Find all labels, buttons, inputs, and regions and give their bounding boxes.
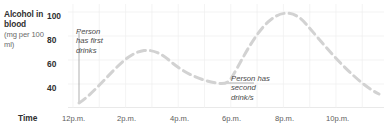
y-axis-tick-100: 100 (47, 11, 69, 21)
x-axis-tick-2pm: 2p.m. (117, 114, 136, 123)
x-axis-tick-6pm: 6p.m. (222, 114, 241, 123)
y-axis-tick-80: 80 (47, 35, 69, 45)
y-axis-title: Alcohol in blood (mg per 100 ml) (4, 9, 48, 50)
plot-area (68, 4, 384, 108)
plot-svg (68, 4, 384, 108)
y-axis-tick-60: 60 (47, 59, 69, 69)
x-axis-tick-12pm: 12p.m. (62, 114, 85, 123)
blood-alcohol-line-chart: Alcohol in blood (mg per 100 ml) 100 80 … (0, 0, 384, 129)
grid-vertical (73, 4, 362, 108)
x-axis-title: Time (18, 113, 37, 123)
y-axis-tick-40: 40 (47, 83, 69, 93)
x-axis-tick-8pm: 8p.m. (275, 114, 294, 123)
x-axis-tick-4pm: 4p.m. (170, 114, 189, 123)
y-axis-units-text: (mg per 100 ml) (4, 30, 48, 49)
x-axis-tick-10pm: 10p.m. (326, 114, 349, 123)
annotation-first-drinks: Person has first drinks (76, 27, 128, 55)
annotation-second-drinks: Person has second drink/s (231, 74, 301, 102)
y-axis-title-text: Alcohol in blood (4, 9, 43, 29)
